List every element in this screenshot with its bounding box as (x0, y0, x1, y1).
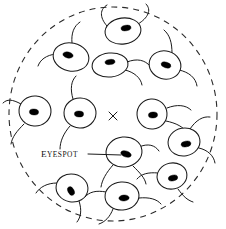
light-source-x-mark (109, 112, 117, 120)
flagellum (127, 60, 150, 66)
flagellum (101, 165, 113, 187)
alga-labeled-center (101, 135, 159, 187)
flagellum (72, 22, 80, 43)
flagellum (179, 70, 197, 86)
figure-root: EYESPOT (0, 0, 226, 229)
flagellum (3, 100, 21, 104)
flagellum (139, 198, 161, 204)
flagellum (167, 106, 191, 110)
eyespot-label-rest: YESPOT (47, 150, 78, 159)
alga-lower-left (36, 171, 90, 222)
flagellum (133, 166, 146, 184)
alga-upper-mid (91, 51, 150, 85)
cell-body (103, 16, 142, 47)
flagellum (60, 126, 70, 149)
alga-left-outer (3, 95, 52, 144)
flagellum (138, 4, 149, 24)
alga-top-center (101, 4, 148, 46)
eyespot (148, 112, 158, 119)
flagellum (101, 5, 107, 26)
alga-upper-left (38, 22, 92, 74)
alga-right-outer (166, 117, 215, 163)
alga-bottom-center (85, 181, 161, 224)
flagellum (99, 209, 113, 224)
eyespot (29, 109, 39, 116)
alga-upper-right (146, 30, 197, 86)
eyespot-label: EYESPOT (41, 149, 78, 159)
alga-left-inner (60, 76, 97, 149)
eyespot-diagram-canvas: EYESPOT (0, 0, 226, 229)
flagellum (11, 124, 24, 144)
flagellum (164, 30, 172, 53)
cell-body (91, 51, 129, 79)
flagellum (85, 191, 106, 197)
eyespot (119, 195, 130, 202)
flagellum (36, 183, 57, 193)
flagellum (71, 76, 76, 99)
flagellum (77, 201, 81, 222)
eyespot (74, 111, 83, 117)
flagellum (125, 70, 142, 85)
flagellum (190, 117, 210, 129)
